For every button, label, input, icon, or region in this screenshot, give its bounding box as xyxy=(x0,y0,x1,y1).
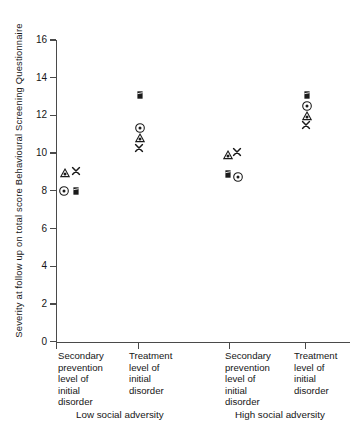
x-axis-category-label: Secondary prevention level of initial di… xyxy=(58,350,104,408)
y-axis-tick-label: 10 xyxy=(7,148,47,158)
data-point-x xyxy=(233,148,242,157)
y-axis-tick-label: 2 xyxy=(7,299,47,309)
y-axis-tick xyxy=(50,152,56,153)
x-axis-tick xyxy=(56,342,57,349)
data-point-circle-dot xyxy=(302,101,313,112)
data-point-circle-dot xyxy=(135,123,146,134)
x-axis-tick xyxy=(138,342,139,349)
data-point-square xyxy=(72,187,80,196)
y-axis-tick xyxy=(50,39,56,40)
data-point-x xyxy=(135,144,144,153)
y-axis-tick-label: 14 xyxy=(7,73,47,83)
scatter-chart: Severity at follow up on total score Beh… xyxy=(0,0,352,431)
x-axis-tick xyxy=(305,342,306,349)
group-label: High social adversity xyxy=(235,409,325,420)
data-point-triangle xyxy=(302,111,312,121)
y-axis-tick-label: 16 xyxy=(7,35,47,45)
data-point-circle-dot xyxy=(233,172,244,183)
data-point-x xyxy=(302,121,311,130)
data-point-x xyxy=(72,167,81,176)
data-point-triangle xyxy=(223,150,233,160)
y-axis-tick-label: 12 xyxy=(7,110,47,120)
data-point-triangle xyxy=(135,133,145,143)
y-axis-tick-label: 8 xyxy=(7,186,47,196)
y-axis-tick-label: 4 xyxy=(7,261,47,271)
x-axis-tick xyxy=(229,342,230,349)
y-axis-line xyxy=(56,40,57,343)
data-point-triangle xyxy=(60,168,70,178)
x-axis-category-label: Treatment level of initial disorder xyxy=(294,350,337,396)
x-axis-category-label: Treatment level of initial disorder xyxy=(129,350,172,396)
data-point-square xyxy=(224,170,232,179)
group-label: Low social adversity xyxy=(76,409,164,420)
y-axis-tick xyxy=(50,228,56,229)
y-axis-tick xyxy=(50,190,56,191)
y-axis-tick xyxy=(50,77,56,78)
y-axis-tick-label: 6 xyxy=(7,224,47,234)
y-axis-tick-label: 0 xyxy=(7,337,47,347)
x-axis-category-label: Secondary prevention level of initial di… xyxy=(225,350,271,408)
data-point-square xyxy=(136,91,144,100)
y-axis-tick xyxy=(50,303,56,304)
data-point-square xyxy=(303,91,311,100)
y-axis-tick xyxy=(50,266,56,267)
data-point-circle-dot xyxy=(59,186,70,197)
y-axis-tick xyxy=(50,115,56,116)
